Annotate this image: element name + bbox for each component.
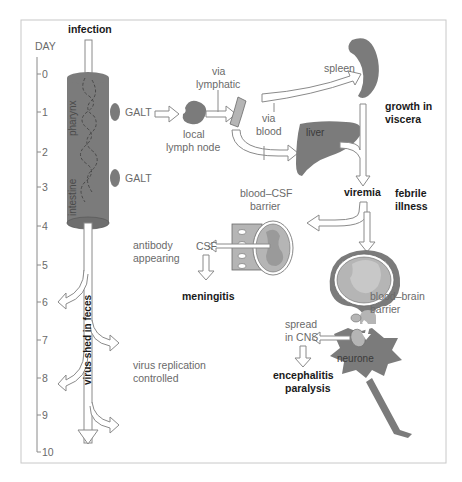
virus-replication-controlled-label-1: virus replication — [133, 359, 206, 371]
lymph-node-label-1: local — [183, 128, 205, 140]
blood-brain-barrier-label-2: barrier — [370, 303, 401, 315]
spread-in-cns-label-2: in CNS — [285, 331, 318, 343]
svg-text:5: 5 — [42, 259, 48, 271]
svg-text:1: 1 — [42, 106, 48, 118]
infection-label: infection — [68, 23, 112, 35]
viremia-label: viremia — [344, 186, 381, 198]
blood-csf-barrier-label-2: barrier — [250, 200, 281, 212]
spread-in-cns-label-1: spread — [285, 318, 317, 330]
virus-shed-label: virus shed in feces — [82, 295, 93, 385]
spleen-label: spleen — [324, 62, 355, 74]
febrile-illness-label-2: illness — [395, 200, 428, 212]
svg-text:7: 7 — [42, 334, 48, 346]
pharynx-label: pharynx — [67, 100, 78, 136]
meningitis-label: meningitis — [182, 290, 235, 302]
virus-replication-controlled-label-2: controlled — [133, 372, 179, 384]
svg-text:4: 4 — [42, 220, 48, 232]
febrile-illness-label-1: febrile — [395, 187, 427, 199]
via-blood-label-2: blood — [256, 125, 282, 137]
galt-upper-blob — [110, 103, 120, 121]
pathogenesis-diagram: infection DAY 0 1 2 3 4 5 6 7 8 9 10 pha… — [0, 0, 462, 482]
svg-text:2: 2 — [42, 146, 48, 158]
growth-in-viscera-label-1: growth in — [385, 100, 432, 112]
liver-label: liver — [306, 127, 325, 138]
lymph-node-label-2: lymph node — [166, 141, 220, 153]
blood-csf-barrier-label-1: blood–CSF — [240, 187, 293, 199]
growth-in-viscera-label-2: viscera — [385, 113, 421, 125]
svg-text:DAY: DAY — [35, 40, 56, 52]
intestine-label: intestine — [67, 178, 78, 216]
svg-text:8: 8 — [42, 372, 48, 384]
galt-upper-label: GALT — [125, 106, 152, 118]
via-blood-label-1: via — [262, 112, 276, 124]
galt-lower-label: GALT — [125, 172, 152, 184]
csf-label: CSF — [196, 240, 217, 252]
encephalitis-label: encephalitis — [273, 369, 334, 381]
paralysis-label: paralysis — [285, 382, 331, 394]
svg-text:9: 9 — [42, 409, 48, 421]
svg-text:6: 6 — [42, 296, 48, 308]
svg-text:0: 0 — [42, 68, 48, 80]
svg-text:3: 3 — [42, 181, 48, 193]
neurone-label: neurone — [337, 353, 374, 364]
svg-text:10: 10 — [42, 446, 54, 458]
gut-cylinder: pharynx intestine — [67, 72, 109, 229]
antibody-appearing-label-1: antibody — [133, 239, 173, 251]
blood-brain-barrier-label-1: blood–brain — [370, 290, 425, 302]
galt-lower-blob — [110, 169, 120, 187]
via-lymphatic-label-1: via — [212, 65, 226, 77]
antibody-appearing-label-2: appearing — [133, 252, 180, 264]
via-lymphatic-label-2: lymphatic — [196, 78, 240, 90]
